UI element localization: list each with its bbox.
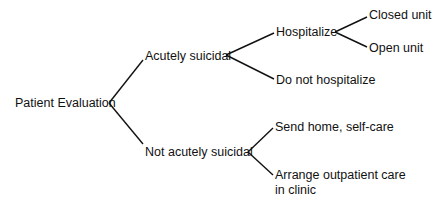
node-acutely-suicidal: Acutely suicidal [145,49,231,63]
node-not-acutely-suicidal: Not acutely suicidal [145,145,253,159]
node-send-home: Send home, self-care [275,120,394,134]
edge-hospitalize-open [335,32,367,47]
edge-acutely-hospitalize [226,33,274,55]
node-open-unit: Open unit [369,41,423,55]
node-do-not-hospitalize: Do not hospitalize [276,73,375,87]
decision-tree-diagram: Patient Evaluation Acutely suicidal Not … [0,0,443,203]
node-hospitalize: Hospitalize [276,25,337,39]
node-arrange-outpatient-line2: in clinic [275,183,316,197]
node-closed-unit: Closed unit [369,8,432,22]
edge-hospitalize-closed [335,17,367,32]
node-patient-evaluation: Patient Evaluation [15,96,116,110]
node-arrange-outpatient: Arrange outpatient care [275,168,406,182]
edge-acutely-do-not [226,55,274,79]
